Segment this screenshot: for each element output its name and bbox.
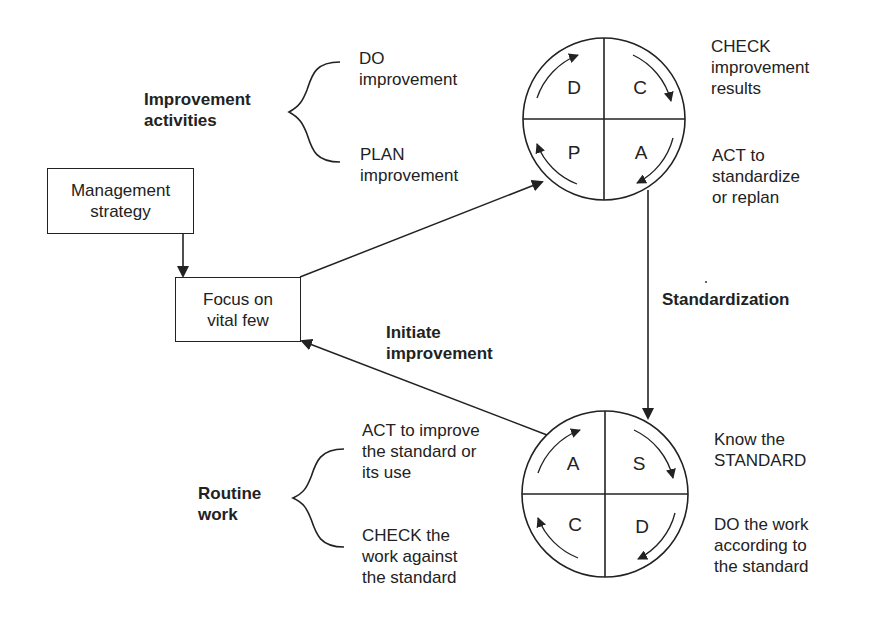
check-improvement-results-label: CHECK improvement results: [711, 36, 809, 99]
pdca-quadrant-do: D: [559, 77, 589, 99]
focus-vital-few-box: Focus on vital few: [175, 277, 301, 342]
do-work-label: DO the work according to the standard: [714, 514, 809, 577]
act-standardize-label: ACT to standardize or replan: [712, 145, 800, 208]
pdca-quadrant-plan: P: [559, 142, 589, 164]
improvement-activities-label: Improvement activities: [144, 89, 251, 131]
act-improve-standard-label: ACT to improve the standard or its use: [362, 420, 480, 483]
focus-to-plan-arrow: [300, 182, 542, 277]
sdca-cycle-circle: [522, 411, 688, 577]
sdca-quadrant-do: D: [627, 516, 657, 538]
management-strategy-box: Management strategy: [47, 168, 194, 234]
sdca-quadrant-check: C: [560, 514, 590, 536]
sdca-quadrant-standard: S: [624, 453, 654, 475]
initiate-improvement-label: Initiate improvement: [386, 322, 493, 364]
standardization-label: Standardization: [662, 289, 790, 310]
check-work-label: CHECK the work against the standard: [362, 525, 457, 588]
pdca-quadrant-act: A: [626, 142, 656, 164]
pdca-quadrant-check: C: [625, 77, 655, 99]
know-standard-label: Know the STANDARD: [714, 429, 806, 471]
improvement-brace: [289, 62, 340, 162]
pdca-cycle-circle: [523, 38, 685, 200]
sdca-quadrant-act: A: [558, 453, 588, 475]
routine-work-label: Routine work: [198, 483, 261, 525]
plan-improvement-label: PLAN improvement: [360, 144, 458, 186]
do-improvement-label: DO improvement: [359, 48, 457, 90]
routine-brace: [293, 449, 344, 547]
